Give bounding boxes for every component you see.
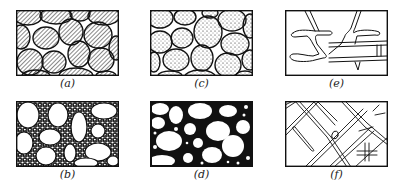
bond-network-diagram [285, 101, 388, 167]
panel-label-f: (f) [285, 168, 388, 181]
grains-in-black-matrix-diagram [150, 101, 253, 167]
panel-label-d: (d) [150, 168, 253, 181]
panel-d [150, 101, 253, 167]
hatched-grains-diagram [16, 10, 119, 76]
panel-label-e: (e) [285, 77, 388, 90]
panel-label-b: (b) [16, 168, 119, 181]
panel-label-c: (c) [150, 77, 253, 90]
panel-a [16, 10, 119, 76]
stippled-grains-diagram [150, 10, 253, 76]
panel-c [150, 10, 253, 76]
panel-label-a: (a) [16, 77, 119, 90]
panel-e [285, 10, 388, 76]
grains-in-fine-matrix-diagram [16, 101, 119, 167]
panel-f [285, 101, 388, 167]
panel-b [16, 101, 119, 167]
sparse-bonds-diagram [285, 10, 388, 76]
